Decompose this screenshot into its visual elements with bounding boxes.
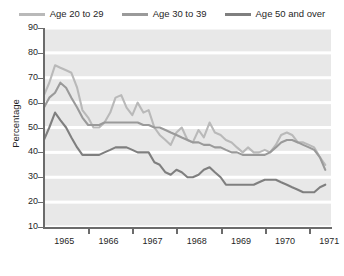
x-axis-tick-label: 1965 — [44, 236, 84, 246]
x-axis-tick-label: 1968 — [177, 236, 217, 246]
legend-swatch-icon — [122, 13, 148, 16]
y-axis-tick-label: 60 — [16, 98, 38, 107]
gridline — [44, 76, 331, 79]
gridlines — [44, 28, 331, 227]
y-axis-tick-label: 70 — [16, 73, 38, 82]
x-axis-tick-mark — [88, 229, 90, 234]
y-axis-tick-label: 40 — [16, 147, 38, 156]
x-axis-tick-label: 1966 — [88, 236, 128, 246]
plot-area — [44, 28, 331, 227]
x-axis-tick-mark — [176, 229, 178, 234]
legend-item-age-30-to-39[interactable]: Age 30 to 39 — [122, 9, 207, 19]
x-axis-tick-mark — [221, 229, 223, 234]
series-line-age-20-to-29 — [44, 65, 325, 165]
x-axis-tick-label: 1967 — [133, 236, 173, 246]
line-chart: Age 20 to 29 Age 30 to 39 Age 50 and ove… — [0, 0, 344, 276]
legend-label: Age 30 to 39 — [153, 9, 207, 19]
gridline — [44, 126, 331, 129]
gridline — [44, 28, 331, 30]
y-axis-tick-label: 20 — [16, 197, 38, 206]
legend-label: Age 50 and over — [256, 9, 326, 19]
x-axis-tick-marks — [0, 229, 344, 235]
legend-swatch-icon — [225, 13, 251, 16]
series-canvas — [44, 28, 331, 227]
y-axis-tick-label: 30 — [16, 172, 38, 181]
x-axis-tick-labels: 1965196619671968196919701971 — [0, 236, 344, 250]
legend-label: Age 20 to 29 — [50, 9, 104, 19]
gridline — [44, 51, 331, 54]
gridline — [44, 151, 331, 154]
x-axis-tick-mark — [265, 229, 267, 234]
x-axis-tick-mark — [132, 229, 134, 234]
y-axis-tick-label: 80 — [16, 48, 38, 57]
gridline — [44, 101, 331, 104]
x-axis-tick-mark — [309, 229, 311, 234]
chart-legend: Age 20 to 29 Age 30 to 39 Age 50 and ove… — [0, 6, 344, 22]
y-axis-tick-label: 50 — [16, 123, 38, 132]
y-axis-tick-label: 90 — [16, 23, 38, 32]
x-axis-tick-label: 1971 — [309, 236, 344, 246]
x-axis-tick-label: 1970 — [265, 236, 305, 246]
y-axis-line — [43, 28, 45, 228]
gridline — [44, 201, 331, 204]
legend-item-age-50-and-over[interactable]: Age 50 and over — [225, 9, 326, 19]
x-axis-tick-label: 1969 — [221, 236, 261, 246]
